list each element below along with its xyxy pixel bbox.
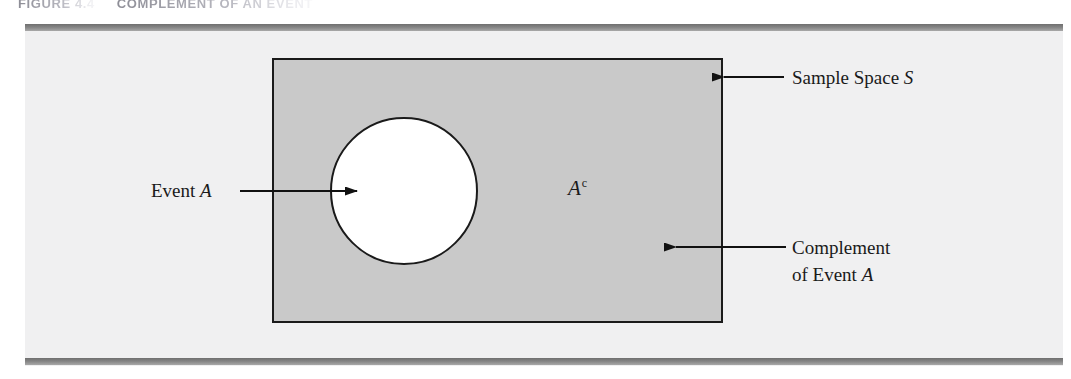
event-label-text: Event xyxy=(151,180,195,201)
event-label: Event A xyxy=(151,178,212,204)
complement-label: Complementof Event A xyxy=(792,234,1012,288)
bottom-rule xyxy=(25,358,1063,365)
figure-caption-title: COMPLEMENT OF AN EVENT xyxy=(117,0,313,8)
complement-symbol-superscript: c xyxy=(582,176,587,190)
complement-symbol-label: Ac xyxy=(568,176,587,201)
sample-space-label-symbol: S xyxy=(904,67,914,88)
complement-label-line1: Complement xyxy=(792,237,890,258)
complement-label-line2-symbol: A xyxy=(862,264,874,285)
figure-page: FIGURE 4.4COMPLEMENT OF AN EVENT Ac xyxy=(0,0,1071,379)
complement-symbol-base: A xyxy=(568,176,581,200)
sample-space-label-text: Sample Space xyxy=(792,67,899,88)
sample-space-label: Sample Space S xyxy=(792,65,913,91)
figure-caption: FIGURE 4.4COMPLEMENT OF AN EVENT xyxy=(18,0,658,8)
top-rule xyxy=(25,24,1063,31)
figure-caption-number: FIGURE 4.4 xyxy=(18,0,95,8)
event-label-symbol: A xyxy=(200,180,212,201)
complement-label-line2-prefix: of Event xyxy=(792,264,857,285)
event-circle xyxy=(330,117,478,265)
